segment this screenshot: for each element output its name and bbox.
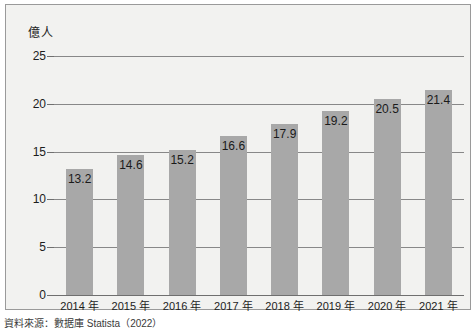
bar[interactable]: 19.2 [322, 111, 349, 295]
bar-series: 13.214.615.216.617.919.220.521.4 [54, 56, 464, 295]
y-tick-label: 15 [33, 145, 46, 159]
bar-slot: 14.6 [105, 56, 156, 295]
bar-value-label: 21.4 [427, 93, 450, 107]
bar-slot: 17.9 [259, 56, 310, 295]
x-axis-category-label: 2019 年 [310, 297, 361, 315]
chart-frame: 億人 0510152025 13.214.615.216.617.919.220… [5, 4, 471, 310]
y-tick-label: 25 [33, 49, 46, 63]
x-axis-category-label: 2014 年 [54, 297, 105, 315]
bar-value-label: 15.2 [170, 153, 193, 167]
bar[interactable]: 14.6 [117, 155, 144, 295]
bar[interactable]: 13.2 [66, 169, 93, 295]
y-tick-mark [47, 199, 54, 200]
bar-slot: 21.4 [413, 56, 464, 295]
bar[interactable]: 16.6 [220, 136, 247, 295]
y-axis-unit-label: 億人 [28, 23, 53, 40]
x-axis-labels: 2014 年2015 年2016 年2017 年2018 年2019 年2020… [54, 297, 464, 315]
bar-value-label: 13.2 [68, 172, 91, 186]
bar[interactable]: 21.4 [425, 90, 452, 295]
x-axis-category-label: 2015 年 [105, 297, 156, 315]
x-axis-category-label: 2021 年 [413, 297, 464, 315]
bar-value-label: 19.2 [324, 114, 347, 128]
plot-area: 0510152025 13.214.615.216.617.919.220.52… [54, 56, 464, 295]
bar[interactable]: 17.9 [271, 124, 298, 295]
bar-slot: 16.6 [208, 56, 259, 295]
bar-slot: 20.5 [362, 56, 413, 295]
y-tick-mark [47, 247, 54, 248]
bar-value-label: 14.6 [119, 158, 142, 172]
bar[interactable]: 20.5 [374, 99, 401, 295]
axis-baseline [54, 295, 464, 296]
source-caption: 資料來源：數据庫 Statista（2022） [4, 315, 162, 330]
y-tick-mark [47, 295, 54, 296]
bar-slot: 15.2 [157, 56, 208, 295]
y-tick-mark [47, 104, 54, 105]
bar[interactable]: 15.2 [169, 150, 196, 295]
bar-slot: 13.2 [54, 56, 105, 295]
x-axis-category-label: 2016 年 [157, 297, 208, 315]
bar-value-label: 20.5 [375, 102, 398, 116]
y-tick-label: 20 [33, 97, 46, 111]
x-axis-category-label: 2020 年 [362, 297, 413, 315]
bar-value-label: 17.9 [273, 127, 296, 141]
bar-slot: 19.2 [310, 56, 361, 295]
bar-value-label: 16.6 [222, 139, 245, 153]
x-axis-category-label: 2018 年 [259, 297, 310, 315]
y-tick-mark [47, 56, 54, 57]
y-tick-label: 0 [39, 288, 46, 302]
y-tick-label: 5 [39, 240, 46, 254]
y-tick-label: 10 [33, 192, 46, 206]
y-tick-mark [47, 152, 54, 153]
x-axis-category-label: 2017 年 [208, 297, 259, 315]
